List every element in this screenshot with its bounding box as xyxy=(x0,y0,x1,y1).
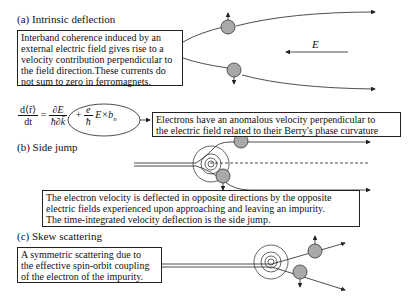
equation-equals: = xyxy=(41,109,47,120)
section-b-label: (b) xyxy=(17,141,30,153)
description-line: The electron velocity is deflected in op… xyxy=(46,192,356,203)
equation-term2-subscript: n xyxy=(113,115,117,123)
description-line: of the electron of the impurity. xyxy=(21,271,158,282)
section-b-heading: (b) Side jump xyxy=(17,141,78,153)
anomalous-velocity-note-box: Electrons have an anomalous velocity per… xyxy=(152,112,401,137)
description-line: A symmetric scattering due to xyxy=(21,249,158,260)
section-c-heading: (c) Skew scattering xyxy=(17,230,102,242)
electron-icon xyxy=(227,63,241,77)
skew-scattering-trajectories xyxy=(160,236,345,290)
electron-icon xyxy=(216,169,230,183)
equation-lhs-numerator: d⟨r̄⟩ xyxy=(18,104,38,116)
section-a-title: Intrinsic deflection xyxy=(32,13,115,25)
velocity-equation: d⟨r̄⟩dt = ∂Eħ∂k̄ + eħ E×bn xyxy=(18,104,117,127)
electron-icon xyxy=(308,244,322,258)
equation-lhs-denominator: dt xyxy=(18,116,38,127)
intrinsic-description-box: Interband coherence induced by an extern… xyxy=(17,30,183,86)
side-jump-description-box: The electron velocity is deflected in op… xyxy=(42,190,360,227)
note-line: Electrons have an anomalous velocity per… xyxy=(156,114,397,125)
description-line: the effective spin-orbit coupling xyxy=(21,260,158,271)
section-c-label: (c) xyxy=(17,230,29,242)
description-line: electric fields experienced upon approac… xyxy=(46,203,356,214)
electron-icon xyxy=(293,265,307,279)
description-line: Interband coherence induced by an xyxy=(21,32,179,43)
note-line: the electric field related to their Berr… xyxy=(156,125,397,136)
description-line: the field direction.These currents do xyxy=(21,65,179,76)
section-b-title: Side jump xyxy=(33,141,78,153)
description-line: The time-integrated velocity deflection … xyxy=(46,214,356,225)
equation-term2-numerator: e xyxy=(84,104,93,116)
electric-field-label: E xyxy=(312,38,319,50)
section-c-title: Skew scattering xyxy=(32,230,102,242)
equation-term1-numerator: ∂E xyxy=(49,104,67,116)
equation-term1-denominator: ħ∂k̄ xyxy=(49,116,67,127)
skew-scattering-description-box: A symmetric scattering due to the effect… xyxy=(17,247,162,283)
description-line: velocity contribution perpendicular to xyxy=(21,54,179,65)
equation-term2-denominator: ħ xyxy=(84,116,93,127)
intrinsic-trajectories xyxy=(183,12,375,89)
description-line: not sum to zero in ferromagnets. xyxy=(21,76,179,87)
section-a-label: (a) xyxy=(17,13,29,25)
section-a-heading: (a) Intrinsic deflection xyxy=(17,13,115,25)
description-line: external electric field gives rise to a xyxy=(21,43,179,54)
equation-term2-body: E×b xyxy=(95,109,113,120)
equation-plus: + xyxy=(76,109,82,120)
electron-icon xyxy=(221,20,235,34)
